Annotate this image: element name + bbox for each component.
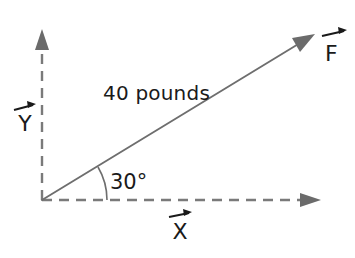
vertical-axis-label: Y bbox=[17, 111, 32, 136]
horizontal-axis-label: X bbox=[172, 219, 187, 244]
force-axis-label: F bbox=[325, 41, 338, 66]
magnitude-label: 40 pounds bbox=[103, 81, 210, 105]
angle-label: 30° bbox=[110, 170, 147, 194]
force-vector-diagram: 40 pounds 30° F X Y bbox=[0, 0, 355, 258]
